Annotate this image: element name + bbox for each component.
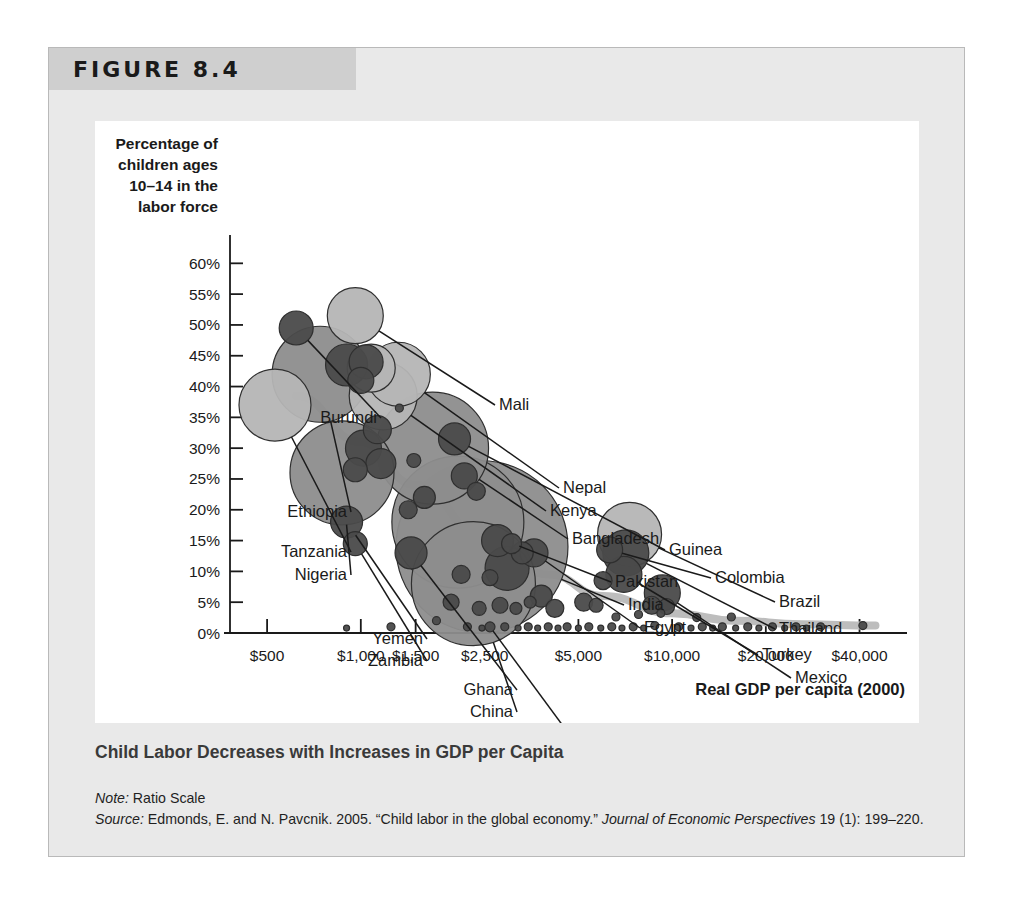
point-label-yemen: Yemen xyxy=(372,629,423,647)
bubble-unlabeled[interactable] xyxy=(510,602,522,614)
point-label-nigeria: Nigeria xyxy=(295,565,348,583)
bubble-unlabeled[interactable] xyxy=(555,625,561,631)
point-label-guinea: Guinea xyxy=(669,540,723,558)
bubble-unlabeled[interactable] xyxy=(452,565,470,583)
bubble-unlabeled[interactable] xyxy=(727,613,735,621)
y-axis-tick-label: 5% xyxy=(198,594,221,611)
y-axis-title-line: labor force xyxy=(138,198,218,215)
point-label-egypt: Egypt xyxy=(644,618,687,636)
y-axis-title-line: children ages xyxy=(118,156,218,173)
bubble-unlabeled[interactable] xyxy=(688,625,694,631)
bubble-unlabeled[interactable] xyxy=(515,625,521,631)
bubble-chart-svg: Percentage ofchildren ages10–14 in thela… xyxy=(95,121,919,723)
bubble-unlabeled[interactable] xyxy=(585,623,593,631)
y-axis-tick-label: 40% xyxy=(189,378,220,395)
x-axis-tick-label: $10,000 xyxy=(644,647,700,664)
bubble-unlabeled[interactable] xyxy=(413,486,435,508)
bubble-ghana[interactable] xyxy=(395,537,427,569)
point-label-brazil: Brazil xyxy=(779,592,820,610)
bubble-unlabeled[interactable] xyxy=(756,625,762,631)
point-label-turkey: Turkey xyxy=(762,645,813,663)
bubble-unlabeled[interactable] xyxy=(546,599,564,617)
source-line: Source: Edmonds, E. and N. Pavcnik. 2005… xyxy=(95,809,935,830)
y-axis-tick-label: 30% xyxy=(189,440,220,457)
figure-caption: Child Labor Decreases with Increases in … xyxy=(95,742,925,763)
bubble-tanzania[interactable] xyxy=(239,369,311,441)
point-label-tanzania: Tanzania xyxy=(281,542,348,560)
figure-panel: FIGURE 8.4 Percentage ofchildren ages10–… xyxy=(48,47,965,857)
point-label-mexico: Mexico xyxy=(795,668,847,686)
bubble-unlabeled[interactable] xyxy=(598,625,604,631)
y-axis-tick-label: 35% xyxy=(189,409,220,426)
bubble-unlabeled[interactable] xyxy=(479,625,485,631)
y-axis-tick-label: 0% xyxy=(198,625,221,642)
bubble-unlabeled[interactable] xyxy=(501,623,509,631)
point-label-colombia: Colombia xyxy=(715,568,786,586)
bubble-unlabeled[interactable] xyxy=(619,625,625,631)
point-label-india: India xyxy=(628,595,665,613)
bubble-unlabeled[interactable] xyxy=(524,596,536,608)
bubble-unlabeled[interactable] xyxy=(472,601,486,615)
y-axis-title-line: Percentage of xyxy=(115,135,218,152)
y-axis-tick-label: 60% xyxy=(189,255,220,272)
bubble-unlabeled[interactable] xyxy=(343,458,367,482)
bubble-unlabeled[interactable] xyxy=(366,449,396,479)
bubble-unlabeled[interactable] xyxy=(407,453,421,467)
bubble-unlabeled[interactable] xyxy=(563,623,571,631)
x-axis-tick-label: $40,000 xyxy=(832,647,888,664)
y-axis-title-line: 10–14 in the xyxy=(129,177,218,194)
figure-header-band: FIGURE 8.4 xyxy=(49,48,356,90)
bubble-burundi[interactable] xyxy=(279,311,313,345)
point-label-zambia: Zambia xyxy=(368,651,424,669)
bubble-unlabeled[interactable] xyxy=(859,622,867,630)
y-axis-tick-label: 45% xyxy=(189,347,220,364)
y-axis-tick-label: 50% xyxy=(189,316,220,333)
point-label-mali: Mali xyxy=(499,395,529,413)
point-label-china: China xyxy=(470,702,514,720)
x-axis-tick-label: $5,000 xyxy=(555,647,603,664)
bubble-unlabeled[interactable] xyxy=(348,367,374,393)
y-axis-tick-label: 15% xyxy=(189,532,220,549)
point-label-bangladesh: Bangladesh xyxy=(572,529,659,547)
note-line: Note: Ratio Scale xyxy=(95,788,935,809)
bubble-unlabeled[interactable] xyxy=(492,597,508,613)
bubble-unlabeled[interactable] xyxy=(502,534,522,554)
bubble-unlabeled[interactable] xyxy=(482,570,498,586)
source-journal: Journal of Economic Perspectives xyxy=(602,811,816,827)
chart-plot-area: Percentage ofchildren ages10–14 in thela… xyxy=(95,121,919,723)
figure-note-source: Note: Ratio Scale Source: Edmonds, E. an… xyxy=(95,788,935,829)
bubble-unlabeled[interactable] xyxy=(575,625,581,631)
bubble-unlabeled[interactable] xyxy=(524,623,532,631)
point-label-burundi: Burundi xyxy=(320,408,377,426)
y-axis-tick-label: 55% xyxy=(189,286,220,303)
x-axis-tick-label: $500 xyxy=(250,647,285,664)
note-label: Note: xyxy=(95,790,129,806)
figure-number-label: FIGURE 8.4 xyxy=(73,57,241,82)
bubble-unlabeled[interactable] xyxy=(544,623,552,631)
bubble-unlabeled[interactable] xyxy=(608,623,616,631)
y-axis-tick-label: 10% xyxy=(189,563,220,580)
source-text: Edmonds, E. and N. Pavcnik. 2005. “Child… xyxy=(144,811,602,827)
point-label-ethiopia: Ethiopia xyxy=(287,502,347,520)
bubble-unlabeled[interactable] xyxy=(399,501,417,519)
bubble-unlabeled[interactable] xyxy=(344,625,350,631)
point-label-nepal: Nepal xyxy=(563,478,606,496)
bubble-unlabeled[interactable] xyxy=(718,623,726,631)
y-axis-tick-label: 20% xyxy=(189,501,220,518)
bubble-unlabeled[interactable] xyxy=(535,625,541,631)
bubble-unlabeled[interactable] xyxy=(432,617,440,625)
source-tail: 19 (1): 199–220. xyxy=(816,811,924,827)
bubble-unlabeled[interactable] xyxy=(733,625,739,631)
bubble-unlabeled[interactable] xyxy=(744,623,752,631)
bubble-unlabeled[interactable] xyxy=(467,482,485,500)
bubble-mali[interactable] xyxy=(327,288,383,344)
point-label-thailand: Thailand xyxy=(779,619,842,637)
bubble-philippines[interactable] xyxy=(485,622,495,632)
source-label: Source: xyxy=(95,811,144,827)
y-axis-tick-label: 25% xyxy=(189,470,220,487)
bubble-unlabeled[interactable] xyxy=(395,404,403,412)
bubble-unlabeled[interactable] xyxy=(612,613,620,621)
note-text: Ratio Scale xyxy=(129,790,206,806)
